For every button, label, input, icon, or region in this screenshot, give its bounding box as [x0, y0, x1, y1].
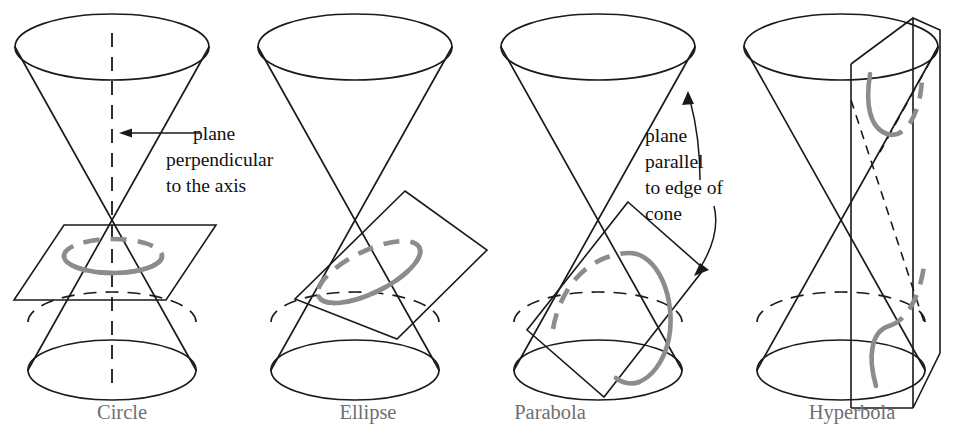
- conic-ellipse-group: [309, 229, 428, 316]
- cone-bottom-rim-back-2: [271, 340, 439, 370]
- panel-hyperbola: Hyperbola: [744, 14, 940, 424]
- cone-bottom-rim-front-2: [271, 370, 439, 400]
- cutting-plane-hyperbola-top-edge: [851, 18, 913, 64]
- conic-hyperbola-lower-visible: [872, 326, 889, 386]
- annotation-parallel-line3: to edge of: [645, 177, 723, 198]
- cutting-plane-ellipse: [295, 191, 487, 339]
- annotation-perpendicular: plane perpendicular to the axis: [119, 123, 274, 196]
- annotation-parallel-line4: cone: [645, 203, 682, 224]
- cone-bottom-rim-front-4: [757, 370, 925, 400]
- conic-hyperbola-upper-visible: [868, 74, 887, 134]
- annotation-parallel-line1: plane: [645, 125, 687, 146]
- annotation-parallel: plane parallel to edge of cone: [645, 91, 723, 276]
- caption-parabola: Parabola: [514, 401, 586, 423]
- conic-ellipse-visible: [319, 247, 429, 315]
- annotation-parallel-line2: parallel: [645, 151, 704, 172]
- annotation-perpendicular-line2: perpendicular: [166, 149, 274, 170]
- cutting-plane-circle: [14, 225, 216, 300]
- cutting-plane-hyperbola: [913, 18, 940, 408]
- arrowhead-perpendicular-icon: [119, 129, 132, 138]
- conic-parabola-hidden: [553, 253, 629, 329]
- cone-edge-left-2: [258, 47, 439, 370]
- cone-edge-left: [15, 47, 196, 370]
- caption-ellipse: Ellipse: [340, 401, 397, 424]
- cone-edge-right-2: [271, 47, 452, 370]
- cone-bottom-hidden-ellipse-3: [514, 292, 682, 322]
- conic-parabola-visible: [629, 253, 671, 382]
- cone-bottom-hidden-ellipse-2: [271, 292, 439, 322]
- figure-canvas: Circle plane perpendicular to the axis: [0, 0, 963, 442]
- conic-circle-visible: [64, 256, 162, 273]
- caption-circle: Circle: [97, 401, 147, 423]
- arrowhead-parallel-lower-icon: [694, 263, 709, 276]
- panel-ellipse: Ellipse: [258, 14, 487, 424]
- annotation-perpendicular-line3: to the axis: [166, 175, 246, 196]
- arrowhead-parallel-upper-icon: [682, 91, 694, 105]
- cone-bottom-rim-back-4: [757, 340, 925, 370]
- conic-sections-figure: Circle plane perpendicular to the axis: [0, 0, 963, 442]
- panel-circle: Circle: [14, 14, 216, 423]
- cone-top-rim-ellipse-4: [744, 14, 938, 80]
- cone-bottom-rim-front-3: [514, 370, 682, 400]
- cone-edge-right: [28, 47, 209, 370]
- annotation-perpendicular-line1: plane: [193, 123, 235, 144]
- cone-top-rim-ellipse-3: [501, 14, 695, 80]
- cone-top-rim-ellipse-2: [258, 14, 452, 80]
- leader-curve-parallel-lower: [700, 206, 716, 268]
- caption-hyperbola: Hyperbola: [809, 401, 896, 424]
- conic-parabola-visible-tail: [616, 378, 639, 383]
